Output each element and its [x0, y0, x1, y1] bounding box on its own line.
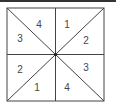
- region-label: 2: [15, 65, 25, 75]
- region-label: 3: [15, 34, 25, 44]
- center-point: [54, 53, 57, 56]
- region-label: 3: [81, 63, 91, 73]
- region-label: 4: [62, 83, 72, 93]
- divided-square: [0, 0, 116, 107]
- region-label: 2: [81, 36, 91, 46]
- region-label: 1: [32, 83, 42, 93]
- region-label: 4: [34, 20, 44, 30]
- region-label: 1: [62, 20, 72, 30]
